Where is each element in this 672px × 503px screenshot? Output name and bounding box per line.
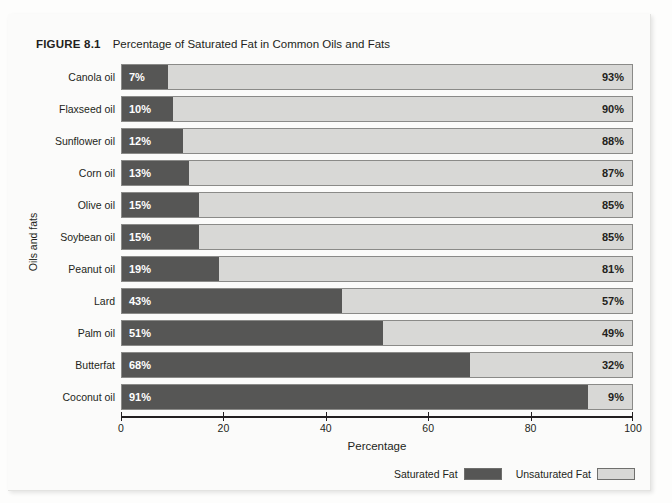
unsaturated-fat-value-label: 87% [602,161,624,185]
x-axis-tick [428,416,429,421]
saturated-fat-value-label: 91% [129,385,151,409]
x-axis-tick-mark [223,412,224,416]
saturated-fat-value-label: 43% [129,289,151,313]
bar-track: 68%32% [121,352,633,378]
x-axis-tick-label: 80 [511,422,551,434]
x-axis-tick-mark [121,412,122,416]
x-axis-tick-label: 60 [408,422,448,434]
category-label: Canola oil [30,64,115,90]
unsaturated-fat-value-label: 9% [608,385,624,409]
x-axis-tick [632,416,633,421]
category-label: Sunflower oil [30,128,115,154]
category-label: Olive oil [30,192,115,218]
unsaturated-fat-value-label: 49% [602,321,624,345]
bar-row: Flaxseed oil10%90% [30,96,642,122]
bar-track: 43%57% [121,288,633,314]
x-axis-tick [121,416,122,421]
category-label: Butterfat [30,352,115,378]
bar-row: Lard43%57% [30,288,642,314]
bar-row: Sunflower oil12%88% [30,128,642,154]
x-axis-tick-label: 0 [101,422,141,434]
legend-swatch-saturated-fat [464,468,502,480]
saturated-fat-value-label: 19% [129,257,151,281]
bar-track: 13%87% [121,160,633,186]
bar-track: 10%90% [121,96,633,122]
category-label: Corn oil [30,160,115,186]
x-axis-tick-label: 20 [203,422,243,434]
bar-row: Coconut oil91%9% [30,384,642,410]
bar-track: 15%85% [121,192,633,218]
x-axis-tick-mark [428,412,429,416]
legend-item-unsaturated-fat: Unsaturated Fat [516,468,635,480]
page-bleed-text [158,15,508,25]
legend-item-saturated-fat: Saturated Fat [394,468,502,480]
saturated-fat-value-label: 13% [129,161,151,185]
category-label: Coconut oil [30,384,115,410]
legend-label: Unsaturated Fat [516,468,591,480]
category-label: Flaxseed oil [30,96,115,122]
x-axis-tick [223,416,224,421]
x-axis: Percentage 020406080100 [121,416,633,462]
saturated-fat-value-label: 12% [129,129,151,153]
bar-row: Corn oil13%87% [30,160,642,186]
bar-track: 91%9% [121,384,633,410]
unsaturated-fat-value-label: 32% [602,353,624,377]
figure-plate: FIGURE 8.1Percentage of Saturated Fat in… [8,14,651,491]
figure-page: FIGURE 8.1Percentage of Saturated Fat in… [0,0,672,503]
chart-legend: Saturated FatUnsaturated Fat [394,466,635,482]
x-axis-tick-mark [632,412,633,416]
saturated-fat-value-label: 68% [129,353,151,377]
x-axis-tick-label: 100 [613,422,653,434]
category-label: Soybean oil [30,224,115,250]
bar-track: 12%88% [121,128,633,154]
x-axis-tick [531,416,532,421]
unsaturated-fat-value-label: 93% [602,65,624,89]
bar-track: 19%81% [121,256,633,282]
saturated-fat-value-label: 15% [129,193,151,217]
bar-row: Peanut oil19%81% [30,256,642,282]
unsaturated-fat-value-label: 85% [602,225,624,249]
saturated-fat-segment [122,385,588,409]
saturated-fat-value-label: 51% [129,321,151,345]
figure-number: FIGURE 8.1 [36,38,101,50]
figure-title: Percentage of Saturated Fat in Common Oi… [113,38,390,50]
bar-track: 51%49% [121,320,633,346]
unsaturated-fat-value-label: 90% [602,97,624,121]
bar-row: Olive oil15%85% [30,192,642,218]
unsaturated-fat-value-label: 85% [602,193,624,217]
saturated-fat-segment [122,289,342,313]
plot-area: Canola oil7%93%Flaxseed oil10%90%Sunflow… [30,64,642,416]
x-axis-tick [326,416,327,421]
x-axis-tick-mark [326,412,327,416]
saturated-fat-segment [122,321,383,345]
unsaturated-fat-value-label: 57% [602,289,624,313]
category-label: Peanut oil [30,256,115,282]
saturated-fat-value-label: 7% [129,65,145,89]
bar-row: Butterfat68%32% [30,352,642,378]
saturated-fat-value-label: 15% [129,225,151,249]
legend-swatch-unsaturated-fat [597,468,635,480]
category-label: Palm oil [30,320,115,346]
saturated-fat-value-label: 10% [129,97,151,121]
x-axis-tick-mark [531,412,532,416]
bar-row: Soybean oil15%85% [30,224,642,250]
figure-caption: FIGURE 8.1Percentage of Saturated Fat in… [36,38,390,50]
stacked-bar-chart: Oils and fats Canola oil7%93%Flaxseed oi… [30,64,642,464]
category-label: Lard [30,288,115,314]
unsaturated-fat-value-label: 88% [602,129,624,153]
x-axis-title: Percentage [121,440,633,452]
legend-label: Saturated Fat [394,468,458,480]
bar-row: Canola oil7%93% [30,64,642,90]
unsaturated-fat-value-label: 81% [602,257,624,281]
saturated-fat-segment [122,353,470,377]
bar-track: 15%85% [121,224,633,250]
bar-row: Palm oil51%49% [30,320,642,346]
x-axis-tick-label: 40 [306,422,346,434]
bar-track: 7%93% [121,64,633,90]
x-axis-line [121,416,633,418]
